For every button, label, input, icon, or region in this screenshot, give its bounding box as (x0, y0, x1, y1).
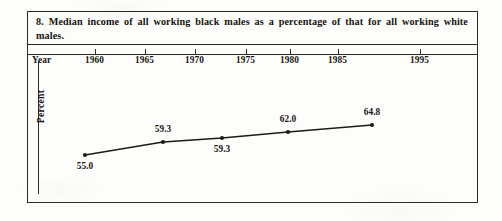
year-axis-tick (290, 49, 291, 54)
data-point-value-label: 64.8 (364, 107, 381, 117)
data-point-marker (220, 136, 224, 140)
data-point-value-label: 55.0 (77, 161, 94, 171)
line-series-svg (28, 61, 477, 202)
year-axis-tick (246, 49, 247, 54)
year-axis-row: Year 1960196519701975198019851995 (28, 45, 477, 61)
data-point-marker (370, 123, 374, 127)
plot-area: Percent 55.059.359.362.064.8 (28, 61, 477, 202)
data-point-value-label: 62.0 (280, 114, 297, 124)
figure-caption-text: 8. Median income of all working black ma… (36, 15, 468, 42)
year-axis-tick (338, 49, 339, 54)
data-point-value-label: 59.3 (214, 144, 231, 154)
figure-caption-block: 8. Median income of all working black ma… (28, 12, 477, 45)
year-axis-tick (420, 49, 421, 54)
data-point-marker (83, 153, 87, 157)
year-axis-tick (195, 49, 196, 54)
year-axis-tick (145, 49, 146, 54)
data-point-marker (286, 130, 290, 134)
data-point-value-label: 59.3 (155, 124, 172, 134)
data-point-marker (161, 140, 165, 144)
year-axis-tick (95, 49, 96, 54)
